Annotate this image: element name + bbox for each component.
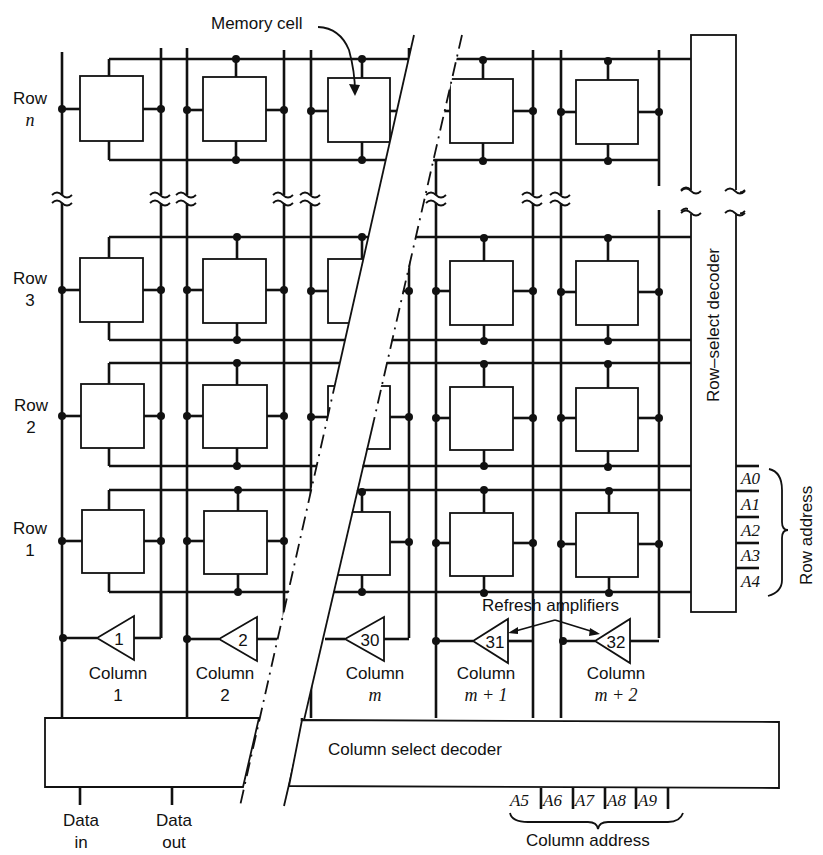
row-labels: Row n Row 3 Row 2 Row 1 bbox=[13, 89, 49, 560]
column-address-brace bbox=[510, 813, 683, 829]
amplifier-number-32: 32 bbox=[607, 633, 626, 652]
row-3-label: Row bbox=[13, 269, 48, 288]
column-select-decoder-label: Column select decoder bbox=[328, 740, 502, 759]
row-addr-a3: A3 bbox=[740, 546, 760, 565]
row-2-index: 2 bbox=[26, 418, 35, 437]
col-addr-a9: A9 bbox=[637, 791, 657, 810]
row-address-lines: A0 A1 A2 A3 A4 Row address bbox=[736, 466, 816, 596]
column-address-lines: A5 A6 A7 A8 A9 Column address bbox=[509, 788, 683, 850]
column-1-index: 1 bbox=[113, 686, 122, 705]
column-2-index: 2 bbox=[220, 686, 229, 705]
col-addr-a8: A8 bbox=[606, 791, 626, 810]
row-addr-a0: A0 bbox=[740, 469, 760, 488]
col-addr-a7: A7 bbox=[574, 791, 595, 810]
column-m1-index: m + 1 bbox=[464, 685, 507, 705]
column-address-label: Column address bbox=[526, 831, 650, 850]
row-2-label: Row bbox=[14, 396, 49, 415]
row-addr-a2: A2 bbox=[740, 521, 760, 540]
refresh-amplifiers-label: Refresh amplifiers bbox=[482, 596, 619, 615]
amplifier-number-31: 31 bbox=[486, 633, 505, 652]
row-address-label: Row address bbox=[797, 486, 816, 585]
row-1-index: 1 bbox=[25, 541, 34, 560]
row-select-decoder-label: Row–select decoder bbox=[704, 248, 723, 402]
diagonal-cut bbox=[240, 35, 462, 806]
data-out-label-1: Data bbox=[156, 811, 192, 830]
row-select-decoder: Row–select decoder bbox=[681, 35, 745, 612]
data-in-label-1: Data bbox=[63, 811, 99, 830]
row-1-cells bbox=[82, 510, 638, 577]
column-1-label: Column bbox=[89, 664, 148, 683]
row-address-brace bbox=[768, 469, 788, 596]
row-addr-a1: A1 bbox=[740, 495, 760, 514]
amplifier-number-2: 2 bbox=[238, 631, 247, 650]
dram-array-diagram: 1 2 30 31 32 bbox=[0, 0, 823, 855]
data-io: Data in Data out bbox=[63, 787, 192, 852]
column-m1-label: Column bbox=[457, 664, 516, 683]
amplifier-number-1: 1 bbox=[114, 630, 123, 649]
data-in-label-2: in bbox=[74, 833, 87, 852]
row-3-index: 3 bbox=[25, 291, 34, 310]
row-n-label: Row bbox=[13, 89, 48, 108]
column-m2-label: Column bbox=[587, 664, 646, 683]
data-out-label-2: out bbox=[162, 833, 186, 852]
column-m-index: m bbox=[369, 685, 382, 705]
row-addr-a4: A4 bbox=[740, 572, 760, 591]
column-select-decoder: Column select decoder bbox=[45, 718, 779, 788]
col-addr-a6: A6 bbox=[542, 791, 562, 810]
col-addr-a5: A5 bbox=[509, 791, 529, 810]
row-n-index: n bbox=[26, 110, 35, 130]
column-m2-index: m + 2 bbox=[594, 685, 637, 705]
amplifier-number-30: 30 bbox=[361, 631, 380, 650]
memory-cell-label: Memory cell bbox=[211, 14, 303, 33]
column-2-label: Column bbox=[196, 664, 255, 683]
column-m-label: Column bbox=[346, 664, 405, 683]
row-1-label: Row bbox=[13, 519, 48, 538]
